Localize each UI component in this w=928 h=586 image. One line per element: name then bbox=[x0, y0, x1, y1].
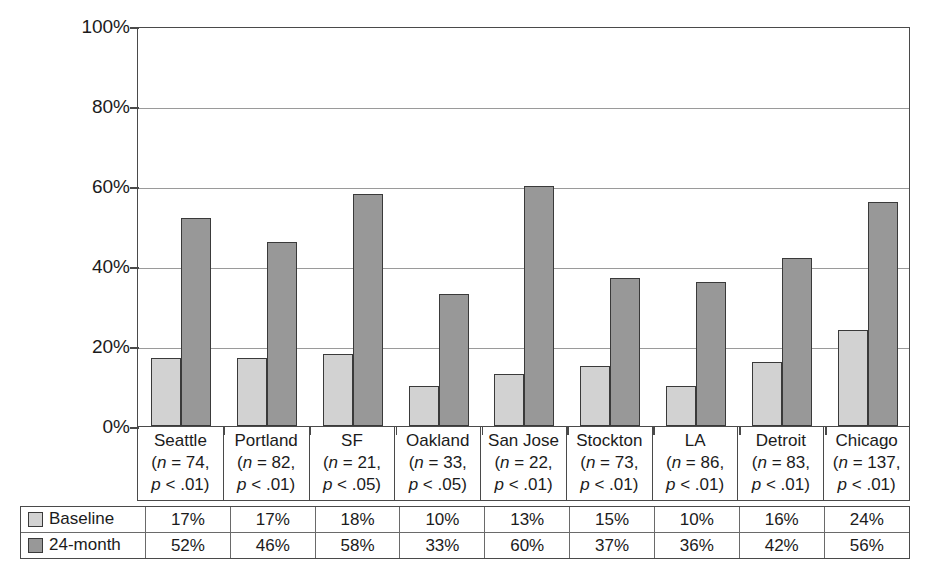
y-axis-tick-label: 20% bbox=[64, 337, 130, 356]
category-sample-size: (n = 86, bbox=[666, 452, 724, 474]
x-axis-category-cell: Oakland(n = 33,p < .05) bbox=[395, 427, 481, 500]
x-axis-category-band: Seattle(n = 74,p < .01)Portland(n = 82,p… bbox=[137, 427, 910, 501]
bar-24-month bbox=[524, 186, 554, 426]
table-cell-value: 24% bbox=[824, 507, 909, 533]
category-sample-size: (n = 74, bbox=[151, 452, 209, 474]
table-cell-value: 52% bbox=[146, 533, 231, 559]
category-sample-size: (n = 22, bbox=[494, 452, 552, 474]
bar-baseline bbox=[838, 330, 868, 426]
table-cell-value: 56% bbox=[824, 533, 909, 559]
category-name: LA bbox=[685, 430, 706, 452]
category-sample-size: (n = 83, bbox=[752, 452, 810, 474]
table-cell-value: 10% bbox=[400, 507, 485, 533]
table-row: 24-month52%46%58%33%60%37%36%42%56% bbox=[21, 533, 909, 559]
category-sample-size: (n = 73, bbox=[580, 452, 638, 474]
category-p-value: p < .01) bbox=[494, 474, 552, 496]
table-cell-value: 42% bbox=[739, 533, 824, 559]
category-name: SF bbox=[341, 430, 363, 452]
series-label: Baseline bbox=[49, 509, 114, 528]
category-name: Detroit bbox=[756, 430, 806, 452]
category-p-value: p < .01) bbox=[580, 474, 638, 496]
x-axis-category-cell: Chicago(n = 137,p < .01) bbox=[824, 427, 909, 500]
bar-24-month bbox=[610, 278, 640, 426]
chart-page: 0%20%40%60%80%100% Seattle(n = 74,p < .0… bbox=[0, 0, 928, 586]
category-p-value: p < .05) bbox=[323, 474, 381, 496]
category-sample-size: (n = 82, bbox=[237, 452, 295, 474]
table-cell-value: 13% bbox=[485, 507, 570, 533]
x-axis-category-cell: Stockton(n = 73,p < .01) bbox=[567, 427, 653, 500]
bar-group bbox=[224, 28, 310, 426]
category-p-value: p < .01) bbox=[237, 474, 295, 496]
bar-baseline bbox=[752, 362, 782, 426]
bar-group bbox=[739, 28, 825, 426]
x-axis-category-cell: San Jose(n = 22,p < .01) bbox=[481, 427, 567, 500]
plot-area bbox=[137, 27, 910, 427]
bar-24-month bbox=[696, 282, 726, 426]
bar-group bbox=[825, 28, 911, 426]
bar-24-month bbox=[868, 202, 898, 426]
bar-group bbox=[138, 28, 224, 426]
category-p-value: p < .01) bbox=[752, 474, 810, 496]
table-cell-value: 15% bbox=[570, 507, 655, 533]
bar-group bbox=[396, 28, 482, 426]
bar-24-month bbox=[353, 194, 383, 426]
category-name: Portland bbox=[235, 430, 298, 452]
bar-24-month bbox=[267, 242, 297, 426]
y-axis: 0%20%40%60%80%100% bbox=[56, 0, 130, 500]
category-sample-size: (n = 33, bbox=[409, 452, 467, 474]
bar-24-month bbox=[181, 218, 211, 426]
category-name: Stockton bbox=[576, 430, 642, 452]
category-name: San Jose bbox=[488, 430, 559, 452]
bar-groups bbox=[138, 28, 909, 426]
y-axis-tick-label: 60% bbox=[64, 177, 130, 196]
category-p-value: p < .01) bbox=[151, 474, 209, 496]
y-axis-tick-label: 0% bbox=[64, 417, 130, 436]
bar-baseline bbox=[580, 366, 610, 426]
category-name: Oakland bbox=[406, 430, 469, 452]
table-cell-value: 33% bbox=[400, 533, 485, 559]
table-cell-value: 46% bbox=[230, 533, 315, 559]
bar-chart: 0%20%40%60%80%100% Seattle(n = 74,p < .0… bbox=[0, 0, 928, 500]
table-cell-value: 17% bbox=[230, 507, 315, 533]
bar-baseline bbox=[666, 386, 696, 426]
x-axis-category-cell: LA(n = 86,p < .01) bbox=[653, 427, 739, 500]
bar-baseline bbox=[409, 386, 439, 426]
table-cell-value: 58% bbox=[315, 533, 400, 559]
y-axis-tick-label: 80% bbox=[64, 97, 130, 116]
category-p-value: p < .01) bbox=[666, 474, 724, 496]
bar-baseline bbox=[494, 374, 524, 426]
y-axis-tick-label: 100% bbox=[64, 17, 130, 36]
bar-group bbox=[310, 28, 396, 426]
category-name: Chicago bbox=[835, 430, 897, 452]
table-cell-value: 18% bbox=[315, 507, 400, 533]
legend-entry: 24-month bbox=[21, 533, 146, 559]
x-axis-category-cell: Portland(n = 82,p < .01) bbox=[224, 427, 310, 500]
bar-group bbox=[567, 28, 653, 426]
series-label: 24-month bbox=[49, 535, 121, 554]
bar-baseline bbox=[323, 354, 353, 426]
table-cell-value: 36% bbox=[654, 533, 739, 559]
category-p-value: p < .01) bbox=[838, 474, 896, 496]
table-cell-value: 10% bbox=[654, 507, 739, 533]
data-table: Baseline17%17%18%10%13%15%10%16%24%24-mo… bbox=[20, 506, 910, 559]
x-axis-category-cell: Detroit(n = 83,p < .01) bbox=[738, 427, 824, 500]
bar-24-month bbox=[439, 294, 469, 426]
table-cell-value: 17% bbox=[146, 507, 231, 533]
category-sample-size: (n = 137, bbox=[833, 452, 901, 474]
category-name: Seattle bbox=[154, 430, 207, 452]
table-cell-value: 37% bbox=[570, 533, 655, 559]
category-sample-size: (n = 21, bbox=[323, 452, 381, 474]
table-cell-value: 16% bbox=[739, 507, 824, 533]
bar-group bbox=[653, 28, 739, 426]
legend-swatch-icon bbox=[28, 538, 43, 553]
bar-baseline bbox=[237, 358, 267, 426]
bar-group bbox=[482, 28, 568, 426]
legend-entry: Baseline bbox=[21, 507, 146, 533]
y-axis-tick-label: 40% bbox=[64, 257, 130, 276]
legend-swatch-icon bbox=[28, 512, 43, 527]
category-p-value: p < .05) bbox=[409, 474, 467, 496]
x-axis-category-cell: Seattle(n = 74,p < .01) bbox=[138, 427, 224, 500]
bar-baseline bbox=[151, 358, 181, 426]
table-cell-value: 60% bbox=[485, 533, 570, 559]
bar-24-month bbox=[782, 258, 812, 426]
